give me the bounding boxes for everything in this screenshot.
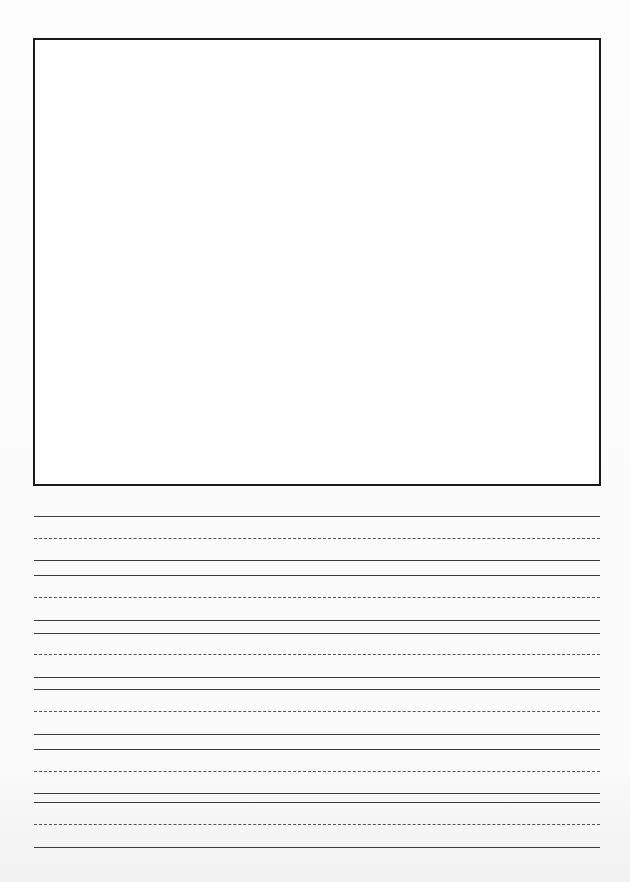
drawing-box <box>33 38 601 486</box>
writing-line-midline <box>34 771 600 772</box>
writing-line-midline <box>34 711 600 712</box>
writing-line-baseline <box>34 620 600 621</box>
writing-line-midline <box>34 597 600 598</box>
writing-line-baseline <box>34 793 600 794</box>
writing-line-midline <box>34 824 600 825</box>
writing-line-top <box>34 689 600 690</box>
writing-line-top <box>34 802 600 803</box>
writing-line-top <box>34 575 600 576</box>
writing-line-midline <box>34 538 600 539</box>
writing-line-top <box>34 633 600 634</box>
writing-line-baseline <box>34 560 600 561</box>
writing-line-top <box>34 516 600 517</box>
writing-line-top <box>34 749 600 750</box>
worksheet-page <box>0 0 630 882</box>
writing-line-baseline <box>34 677 600 678</box>
writing-line-baseline <box>34 847 600 848</box>
writing-line-midline <box>34 654 600 655</box>
writing-line-baseline <box>34 734 600 735</box>
